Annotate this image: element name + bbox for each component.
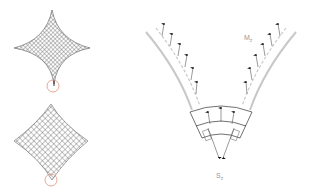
star-mesh-panel [0,0,110,100]
star-mesh-figure [0,0,110,100]
left-strip-inner [156,28,200,106]
diamond-mesh-panel [0,95,110,196]
diamond-mesh [14,104,88,180]
label-m: Mz [244,34,253,43]
force-diagram-panel: Mz Sz [130,0,318,196]
highlight-circle-top [47,80,59,92]
star-mesh [14,10,90,84]
diamond-mesh-figure [0,95,110,196]
force-diagram: Mz Sz [130,0,318,196]
arch-bottom [202,134,240,138]
resultant-arrows [208,128,234,158]
label-s: Sz [216,172,224,181]
